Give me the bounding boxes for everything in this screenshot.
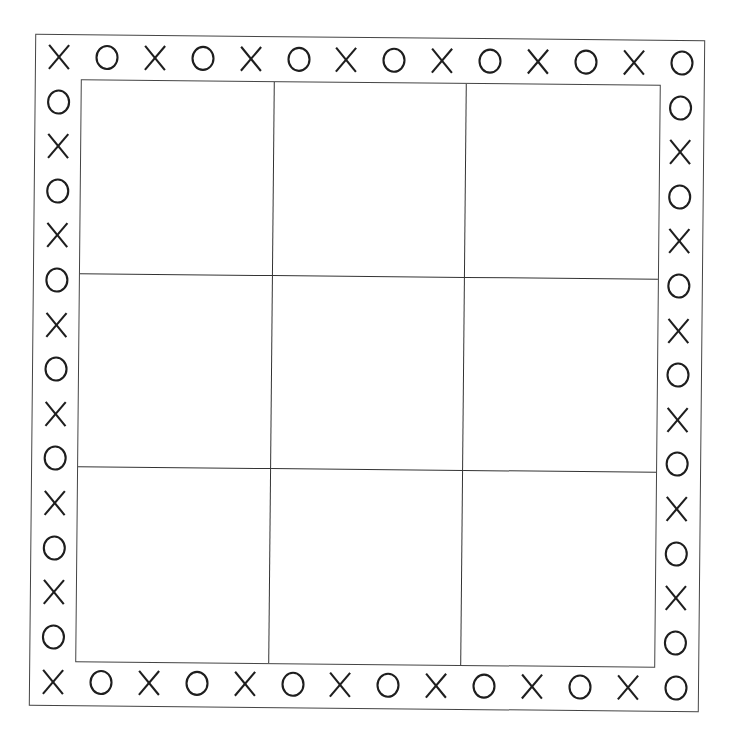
o-mark-icon — [665, 272, 693, 300]
x-mark-icon — [236, 45, 264, 73]
x-mark-icon — [135, 669, 163, 697]
x-mark-icon — [41, 400, 69, 428]
x-mark-icon — [518, 672, 546, 700]
x-mark-icon — [663, 406, 691, 434]
o-mark-icon — [44, 87, 72, 115]
o-mark-icon — [43, 266, 71, 294]
o-mark-icon — [662, 539, 690, 567]
o-mark-icon — [284, 45, 312, 73]
o-mark-icon — [183, 669, 211, 697]
o-mark-icon — [44, 177, 72, 205]
board-cell-r3-c3[interactable] — [462, 471, 657, 667]
board-cell-r2-c1[interactable] — [78, 274, 273, 470]
board-cell-r1-c2[interactable] — [273, 82, 468, 277]
o-mark-icon — [566, 673, 594, 701]
board-cell-r2-c3[interactable] — [463, 278, 658, 474]
x-mark-icon — [664, 316, 692, 344]
o-mark-icon — [666, 93, 694, 121]
x-mark-icon — [663, 495, 691, 523]
x-mark-icon — [332, 46, 360, 74]
x-mark-icon — [665, 227, 693, 255]
x-mark-icon — [326, 671, 354, 699]
board-cell-r3-c2[interactable] — [269, 469, 464, 665]
x-mark-icon — [40, 578, 68, 606]
x-mark-icon — [666, 138, 694, 166]
o-mark-icon — [666, 183, 694, 211]
x-mark-icon — [42, 310, 70, 338]
o-mark-icon — [278, 670, 306, 698]
o-mark-icon — [40, 533, 68, 561]
o-mark-icon — [87, 668, 115, 696]
o-mark-icon — [380, 46, 408, 74]
o-mark-icon — [476, 47, 504, 75]
o-mark-icon — [661, 629, 689, 657]
x-mark-icon — [428, 47, 456, 75]
x-mark-icon — [614, 673, 642, 701]
o-mark-icon — [663, 450, 691, 478]
board-cell-r1-c1[interactable] — [80, 80, 275, 275]
board-cell-r2-c2[interactable] — [271, 276, 466, 472]
o-mark-icon — [41, 444, 69, 472]
o-mark-icon — [93, 43, 121, 71]
o-mark-icon — [189, 44, 217, 72]
x-mark-icon — [43, 221, 71, 249]
x-mark-icon — [524, 47, 552, 75]
x-mark-icon — [39, 668, 67, 696]
tic-tac-toe-board — [75, 79, 661, 668]
o-mark-icon — [572, 48, 600, 76]
x-mark-icon — [662, 584, 690, 612]
x-mark-icon — [141, 44, 169, 72]
o-mark-icon — [470, 672, 498, 700]
o-mark-icon — [668, 49, 696, 77]
board-cell-r3-c1[interactable] — [76, 468, 271, 664]
x-mark-icon — [422, 672, 450, 700]
x-mark-icon — [41, 489, 69, 517]
x-mark-icon — [230, 670, 258, 698]
o-mark-icon — [374, 671, 402, 699]
o-mark-icon — [42, 355, 70, 383]
o-mark-icon — [664, 361, 692, 389]
game-sheet — [29, 34, 705, 712]
x-mark-icon — [45, 43, 73, 71]
o-mark-icon — [39, 623, 67, 651]
o-mark-icon — [662, 674, 690, 702]
board-cell-r1-c3[interactable] — [465, 84, 660, 279]
x-mark-icon — [44, 132, 72, 160]
x-mark-icon — [620, 48, 648, 76]
